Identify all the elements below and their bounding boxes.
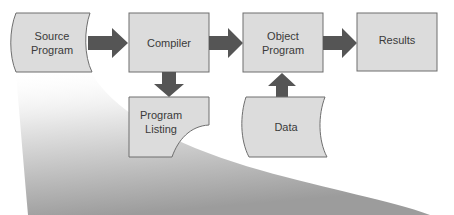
label-object-program: Object Program <box>243 13 323 72</box>
label-results: Results <box>357 11 437 69</box>
label-data: Data <box>246 97 326 157</box>
decorative-swoosh <box>16 74 430 215</box>
arrow-compiler-to-listing <box>154 72 184 97</box>
arrow-compiler-to-object <box>209 28 243 58</box>
arrow-source-to-compiler <box>88 28 128 58</box>
label-compiler: Compiler <box>129 13 209 72</box>
label-program-listing: Program Listing <box>131 104 191 140</box>
arrow-object-to-results <box>323 28 357 58</box>
label-source-program: Source Program <box>14 13 90 72</box>
arrow-data-to-object <box>268 73 296 97</box>
